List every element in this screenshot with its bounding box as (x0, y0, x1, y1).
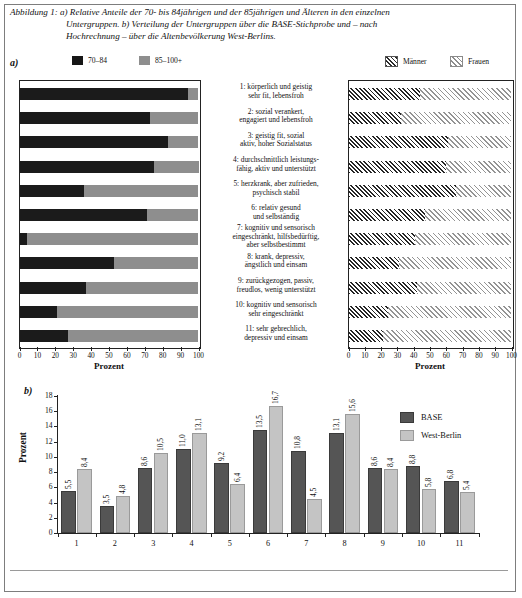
y-tick-label: 0 (37, 528, 53, 537)
subgroup-label-line: fähig, aktiv und unterstützt (206, 165, 346, 174)
bar-row (20, 112, 199, 124)
bar-base-8 (329, 433, 344, 533)
chart-a-right-xlabel: Prozent (410, 361, 450, 371)
subgroup-label-line: psychisch stabil (206, 189, 346, 198)
y-tickmark (54, 411, 58, 412)
bar-row (349, 112, 512, 124)
x-tick-label: 10 (356, 351, 374, 360)
panel-a-label: a) (10, 57, 18, 68)
subgroup-label-line: sehr fit, lebensfroh (206, 92, 346, 101)
y-tick-label: 6 (37, 482, 53, 491)
bar-segment-70-84 (20, 136, 169, 148)
x-tick-label: 6 (258, 539, 278, 548)
x-tickmark (397, 347, 398, 351)
x-tickmark (134, 533, 135, 537)
caption-line-2: Untergruppen. b) Verteilung der Untergru… (10, 18, 508, 30)
y-tickmark (54, 487, 58, 488)
y-tick-label: 10 (37, 452, 53, 461)
x-tick-label: 40 (82, 351, 100, 360)
bar-west-berlin-4 (192, 433, 207, 533)
x-tickmark (55, 347, 56, 351)
bar-segment-frauen (415, 233, 511, 245)
x-tickmark (440, 533, 441, 537)
x-tick-label: 7 (296, 539, 316, 548)
bar-row (349, 330, 512, 342)
y-tickmark (54, 503, 58, 504)
bar-segment-85-100 (154, 161, 199, 173)
footer-divider (10, 570, 508, 571)
x-tickmark (163, 347, 164, 351)
y-tickmark (54, 396, 58, 397)
bar-west-berlin-2 (116, 496, 131, 533)
bar-base-1 (61, 491, 76, 533)
y-tick-label: 2 (37, 513, 53, 522)
bar-segment-frauen (417, 282, 512, 294)
bar-value-label: 9,2 (217, 433, 226, 461)
swatch-maenner-icon (385, 56, 398, 67)
x-tick-label: 90 (172, 351, 190, 360)
subgroup-label-line: aber selbstbestimmt (206, 241, 346, 250)
legend-frauen: Frauen (450, 56, 489, 67)
x-tickmark (495, 347, 496, 351)
x-tickmark (414, 347, 415, 351)
legend-label-85-100: 85–100+ (155, 56, 182, 65)
bar-value-label: 3,5 (102, 476, 111, 504)
bar-row (20, 233, 199, 245)
x-tickmark (402, 533, 403, 537)
bar-row (349, 306, 512, 318)
bar-value-label: 11,0 (178, 419, 187, 447)
swatch-west-berlin-icon (400, 430, 414, 441)
y-tick-label: 12 (37, 437, 53, 446)
x-tickmark (145, 347, 146, 351)
x-tick-label: 80 (154, 351, 172, 360)
bar-segment-85-100 (68, 330, 199, 342)
y-tickmark (54, 426, 58, 427)
subgroup-label-10: 10: kognitiv und sensorischsehr eingesch… (206, 301, 346, 318)
x-tickmark (349, 347, 350, 351)
bar-base-11 (444, 481, 459, 533)
bar-segment-85-100 (168, 136, 198, 148)
x-tickmark (430, 347, 431, 351)
chart-b-ylabel: Prozent (18, 432, 28, 463)
y-tick-label: 14 (37, 421, 53, 430)
bar-value-label: 6,8 (446, 451, 455, 479)
x-tick-label: 5 (220, 539, 240, 548)
caption-line-3: Hochrechnung – über die Altenbevölkerung… (10, 30, 508, 42)
bar-value-label: 16,7 (271, 376, 280, 404)
bar-segment-85-100 (27, 233, 199, 245)
x-tick-label: 100 (503, 351, 521, 360)
bar-value-label: 13,1 (332, 403, 341, 431)
y-tick-label: 16 (37, 406, 53, 415)
x-tickmark (181, 347, 182, 351)
bar-segment-frauen (401, 112, 512, 124)
bar-segment-70-84 (20, 112, 151, 124)
x-tickmark (249, 533, 250, 537)
y-tickmark (54, 442, 58, 443)
subgroup-label-line: depressiv und einsam (206, 334, 346, 343)
x-tick-label: 80 (470, 351, 488, 360)
x-tick-label: 3 (143, 539, 163, 548)
legend-west-berlin: West-Berlin (400, 430, 461, 441)
bar-row (349, 233, 512, 245)
legend-label-maenner: Männer (403, 57, 427, 66)
panel-b-label: b) (24, 385, 32, 396)
bar-segment-70-84 (20, 282, 86, 294)
x-tickmark (58, 533, 59, 537)
bar-segment-70-84 (20, 233, 27, 245)
bar-value-label: 5,4 (462, 462, 471, 490)
bar-value-label: 10,8 (293, 421, 302, 449)
bar-west-berlin-7 (307, 499, 322, 533)
legend-label-west-berlin: West-Berlin (421, 431, 461, 440)
bar-row (20, 209, 199, 221)
x-tick-label: 70 (136, 351, 154, 360)
bar-row (20, 161, 199, 173)
bar-row (20, 88, 199, 100)
x-tickmark (91, 347, 92, 351)
bar-segment-70-84 (20, 257, 115, 269)
bar-segment-frauen (420, 88, 511, 100)
subgroup-label-line: engagiert und lebensfroh (206, 116, 346, 125)
legend-label-frauen: Frauen (468, 57, 489, 66)
bar-base-3 (138, 468, 153, 533)
legend-age-85-100: 85–100+ (139, 56, 182, 65)
x-tick-label: 8 (335, 539, 355, 548)
